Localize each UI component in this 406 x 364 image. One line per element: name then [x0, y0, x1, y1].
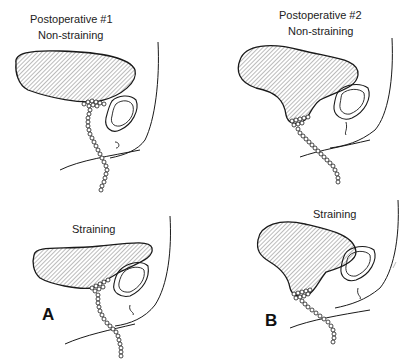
panel-b-straining-drawing	[258, 200, 399, 344]
panel-a-nonstraining-drawing	[16, 42, 159, 192]
panel-b-straining-label: Straining	[313, 208, 356, 220]
panel-b-nonstraining-drawing	[238, 38, 392, 184]
panel-a-straining-drawing	[33, 216, 170, 358]
panel-a-title: Postoperative #1	[30, 13, 113, 25]
panel-b-nonstraining-label: Non-straining	[288, 25, 353, 37]
panel-a-straining-label: Straining	[72, 223, 115, 235]
panel-b-letter: B	[265, 311, 277, 331]
panel-a-nonstraining-label: Non-straining	[38, 29, 103, 41]
panel-a-letter: A	[42, 305, 54, 325]
panel-b-title: Postoperative #2	[279, 9, 362, 21]
illustration-canvas	[0, 0, 406, 364]
stray-mark	[393, 262, 396, 268]
